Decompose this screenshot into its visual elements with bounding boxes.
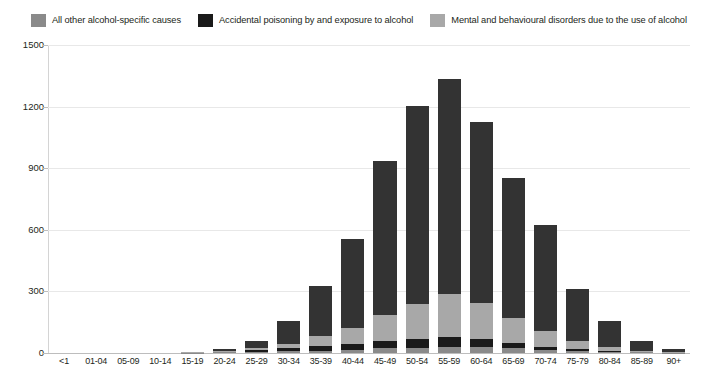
legend-item-label: All other alcohol-specific causes [52, 15, 181, 25]
bar-segment [470, 303, 493, 339]
x-axis-tick-label: 75-79 [562, 356, 594, 376]
bar-segment [438, 347, 461, 353]
bar-column[interactable] [658, 45, 690, 353]
bar-stack [502, 178, 525, 353]
bar-column[interactable] [80, 45, 112, 353]
bar-column[interactable] [562, 45, 594, 353]
bar-stack [341, 239, 364, 353]
bar-column[interactable] [497, 45, 529, 353]
bar-stack [438, 79, 461, 353]
bar-stack [534, 225, 557, 353]
bar-segment [341, 350, 364, 353]
bar-stack [406, 106, 429, 353]
x-axis-tick-label: 65-69 [497, 356, 529, 376]
x-axis-tick-label: 90+ [658, 356, 690, 376]
bar-segment [373, 161, 396, 315]
x-axis-tick-label: 35-39 [305, 356, 337, 376]
bar-column[interactable] [208, 45, 240, 353]
bar-segment [566, 289, 589, 341]
legend-swatch-icon [430, 14, 445, 27]
bar-series-container [48, 45, 690, 353]
bar-segment [470, 339, 493, 347]
x-axis-tick-label: 25-29 [241, 356, 273, 376]
x-axis-tick-label: 55-59 [433, 356, 465, 376]
legend-item[interactable]: All other alcohol-specific causes [31, 14, 181, 27]
bar-segment [277, 351, 300, 353]
bar-stack [662, 349, 685, 353]
bar-segment [630, 352, 653, 353]
bar-column[interactable] [112, 45, 144, 353]
x-axis-tick-label: 60-64 [465, 356, 497, 376]
bar-stack [181, 352, 204, 353]
bar-segment [309, 351, 332, 353]
bar-segment [502, 318, 525, 343]
x-axis-tick-label: <1 [48, 356, 80, 376]
bar-column[interactable] [626, 45, 658, 353]
bar-column[interactable] [144, 45, 176, 353]
bar-column[interactable] [305, 45, 337, 353]
legend-item[interactable]: Accidental poisoning by and exposure to … [198, 14, 413, 27]
legend-item-label: Mental and behavioural disorders due to … [451, 15, 687, 25]
gridline [48, 353, 690, 354]
bar-segment [373, 341, 396, 349]
bar-segment [566, 351, 589, 353]
bar-stack [630, 341, 653, 353]
bar-segment [630, 341, 653, 351]
bar-column[interactable] [433, 45, 465, 353]
bar-stack [245, 341, 268, 353]
x-axis-tick-label: 80-84 [594, 356, 626, 376]
legend-swatch-icon [31, 14, 46, 27]
bar-segment [502, 348, 525, 353]
y-axis-tick-label: 300 [2, 285, 44, 296]
bar-column[interactable] [529, 45, 561, 353]
bar-segment [598, 352, 621, 353]
bar-column[interactable] [176, 45, 208, 353]
bar-segment [277, 321, 300, 344]
y-axis-tick-label: 0 [2, 347, 44, 358]
bar-column[interactable] [369, 45, 401, 353]
bar-column[interactable] [48, 45, 80, 353]
x-axis-tick-label: 45-49 [369, 356, 401, 376]
bar-segment [245, 341, 268, 348]
plot-area [48, 45, 690, 353]
bar-segment [406, 348, 429, 353]
bar-segment [213, 352, 236, 353]
bar-segment [341, 239, 364, 327]
bar-segment [534, 350, 557, 353]
bar-segment [470, 122, 493, 303]
x-axis-tick-label: 70-74 [529, 356, 561, 376]
y-axis-tick [43, 353, 48, 354]
bar-column[interactable] [401, 45, 433, 353]
bar-segment [373, 348, 396, 353]
bar-stack [373, 161, 396, 353]
bar-segment [406, 106, 429, 305]
legend-item[interactable]: Mental and behavioural disorders due to … [430, 14, 687, 27]
x-axis-tick-label: 30-34 [273, 356, 305, 376]
bar-segment [406, 339, 429, 348]
bar-column[interactable] [465, 45, 497, 353]
bar-segment [438, 294, 461, 338]
bar-stack [213, 349, 236, 353]
bar-stack [598, 321, 621, 353]
bar-column[interactable] [273, 45, 305, 353]
bar-segment [309, 286, 332, 336]
bar-stack [566, 289, 589, 353]
x-axis-tick-label: 10-14 [144, 356, 176, 376]
x-axis-tick-label: 15-19 [176, 356, 208, 376]
bar-column[interactable] [337, 45, 369, 353]
bar-segment [438, 337, 461, 346]
bar-stack [470, 122, 493, 353]
bar-column[interactable] [594, 45, 626, 353]
x-axis-tick-label: 01-04 [80, 356, 112, 376]
stacked-bar-chart: All other alcohol-specific causesAcciden… [0, 0, 701, 386]
x-axis-tick-label: 40-44 [337, 356, 369, 376]
bar-stack [309, 286, 332, 353]
bar-segment [309, 336, 332, 346]
bar-segment [502, 178, 525, 318]
legend-item-label: Accidental poisoning by and exposure to … [219, 15, 413, 25]
bar-stack [277, 321, 300, 353]
bar-segment [406, 304, 429, 338]
bar-column[interactable] [241, 45, 273, 353]
bar-segment [534, 331, 557, 346]
bar-segment [245, 352, 268, 353]
